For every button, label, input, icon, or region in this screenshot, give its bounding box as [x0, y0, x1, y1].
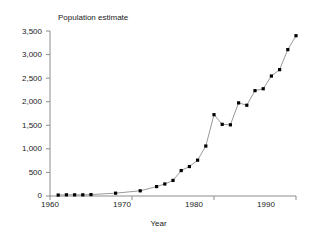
data-point-1973 — [155, 185, 158, 188]
data-point-1964 — [81, 193, 84, 196]
data-point-1980 — [212, 113, 215, 116]
y-axis-ticks — [46, 31, 50, 196]
data-point-1963 — [73, 193, 76, 196]
y-tick-label-0: 0 — [2, 191, 42, 200]
data-point-1982 — [229, 123, 232, 126]
data-point-1985 — [253, 89, 256, 92]
y-tick-label-3000: 3,000 — [2, 50, 42, 59]
data-point-1988 — [278, 68, 281, 71]
y-tick-label-2000: 2,000 — [2, 97, 42, 106]
x-tick-label-1960: 1960 — [30, 200, 70, 209]
data-point-1962 — [65, 193, 68, 196]
data-point-1984 — [245, 104, 248, 107]
chart-axes — [50, 31, 296, 196]
data-point-1978 — [196, 159, 199, 162]
data-series-line — [58, 36, 296, 195]
chart-title: Population estimate — [58, 13, 128, 22]
data-point-1986 — [262, 87, 265, 90]
data-point-1989 — [286, 48, 289, 51]
y-tick-label-2500: 2,500 — [2, 74, 42, 83]
population-estimate-chart: Population estimate Year 3,500 3,000 2,5… — [0, 0, 317, 239]
data-point-1968 — [114, 192, 117, 195]
data-point-1961 — [57, 193, 60, 196]
data-point-1971 — [139, 189, 142, 192]
x-tick-label-1990: 1990 — [246, 200, 286, 209]
data-point-1983 — [237, 101, 240, 104]
y-tick-label-500: 500 — [2, 168, 42, 177]
y-tick-label-1000: 1,000 — [2, 144, 42, 153]
data-point-1987 — [270, 74, 273, 77]
y-tick-label-1500: 1,500 — [2, 121, 42, 130]
data-point-1979 — [204, 144, 207, 147]
data-point-1975 — [171, 179, 174, 182]
data-point-markers — [57, 34, 298, 197]
y-tick-label-3500: 3,500 — [2, 27, 42, 36]
data-point-1965 — [89, 193, 92, 196]
x-tick-label-1970: 1970 — [102, 200, 142, 209]
data-point-1977 — [188, 165, 191, 168]
x-tick-label-1980: 1980 — [174, 200, 214, 209]
x-axis-title: Year — [0, 219, 317, 228]
data-point-1981 — [221, 123, 224, 126]
data-point-1990 — [294, 34, 297, 37]
data-point-1974 — [163, 182, 166, 185]
data-point-1976 — [180, 169, 183, 172]
